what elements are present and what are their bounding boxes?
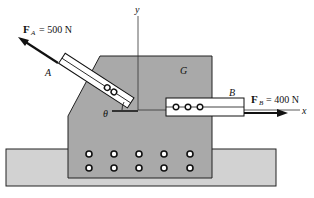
force-a-value: = 500 N xyxy=(39,24,72,35)
gusset-label: G xyxy=(180,65,187,76)
force-a-symbol: F xyxy=(23,23,30,35)
force-b-value: = 400 N xyxy=(266,94,299,105)
angle-label: θ xyxy=(103,108,108,119)
force-a-arrowhead xyxy=(18,37,29,46)
y-axis-label: y xyxy=(134,4,140,15)
member-a-label: A xyxy=(44,67,52,78)
force-b-symbol: F xyxy=(251,93,258,105)
force-a-arrow xyxy=(24,41,58,63)
member-b-label: B xyxy=(229,87,235,98)
member-b xyxy=(166,98,244,116)
truss-gusset-diagram: F A = 500 N A y G θ B F B = 400 N x xyxy=(0,0,314,198)
force-a-subscript: A xyxy=(30,29,36,37)
force-b-subscript: B xyxy=(259,99,264,107)
x-axis-label: x xyxy=(301,105,307,116)
